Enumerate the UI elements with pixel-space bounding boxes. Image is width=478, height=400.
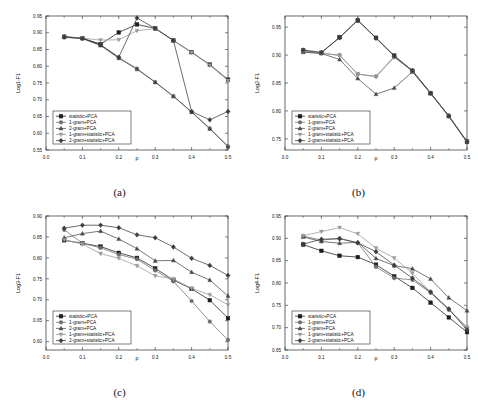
svg-text:2-gram+statistic+PCA: 2-gram+statistic+PCA [69, 138, 115, 143]
svg-text:0.80: 0.80 [33, 256, 42, 261]
panel-caption-d: (d) [239, 386, 478, 398]
svg-text:1-gram+PCA: 1-gram+PCA [308, 320, 336, 325]
svg-text:0.2: 0.2 [116, 355, 123, 360]
svg-text:0.3: 0.3 [152, 155, 159, 160]
svg-text:0.4: 0.4 [188, 355, 195, 360]
svg-text:0.4: 0.4 [427, 155, 434, 160]
svg-text:0.3: 0.3 [391, 155, 398, 160]
svg-text:0.80: 0.80 [272, 281, 281, 286]
svg-text:0.1: 0.1 [318, 355, 325, 360]
svg-text:0.4: 0.4 [427, 355, 434, 360]
svg-text:1-gram+statistic+PCA: 1-gram+statistic+PCA [308, 132, 354, 137]
svg-text:2-gram+PCA: 2-gram+PCA [308, 126, 336, 131]
svg-text:statistic+PCA: statistic+PCA [69, 114, 98, 119]
svg-text:p: p [136, 355, 139, 361]
svg-text:2-gram+PCA: 2-gram+PCA [69, 126, 97, 131]
svg-text:0.80: 0.80 [33, 64, 42, 69]
svg-text:0.65: 0.65 [33, 114, 42, 119]
svg-text:0.90: 0.90 [33, 214, 42, 219]
svg-text:0.0: 0.0 [43, 155, 50, 160]
svg-text:0.2: 0.2 [116, 155, 123, 160]
svg-text:0.5: 0.5 [225, 355, 232, 360]
svg-text:0.95: 0.95 [272, 25, 281, 30]
svg-text:statistic+PCA: statistic+PCA [69, 314, 98, 319]
svg-text:1-gram+PCA: 1-gram+PCA [308, 120, 336, 125]
svg-text:0.1: 0.1 [79, 355, 86, 360]
svg-text:0.95: 0.95 [33, 14, 42, 19]
svg-text:2-gram+PCA: 2-gram+PCA [69, 326, 97, 331]
svg-text:p: p [136, 155, 139, 161]
svg-text:0.85: 0.85 [33, 235, 42, 240]
svg-text:0.90: 0.90 [272, 53, 281, 58]
chart-panel-d: 0.650.700.750.800.850.900.950.00.10.20.3… [239, 200, 478, 400]
chart-panel-b: 0.750.800.850.900.950.00.10.20.30.40.5pL… [239, 0, 478, 200]
svg-text:2-gram+statistic+PCA: 2-gram+statistic+PCA [308, 338, 354, 343]
svg-text:2-gram+PCA: 2-gram+PCA [308, 326, 336, 331]
svg-text:1-gram+PCA: 1-gram+PCA [69, 320, 97, 325]
svg-text:0.85: 0.85 [272, 81, 281, 86]
panel-caption-b: (b) [239, 186, 478, 198]
plot-d: 0.650.700.750.800.850.900.950.00.10.20.3… [239, 200, 478, 400]
svg-text:0.65: 0.65 [272, 348, 281, 353]
svg-text:1-gram+statistic+PCA: 1-gram+statistic+PCA [308, 332, 354, 337]
svg-text:p: p [375, 155, 378, 161]
panel-caption-a: (a) [0, 186, 239, 198]
svg-text:0.1: 0.1 [318, 155, 325, 160]
svg-text:1-gram+PCA: 1-gram+PCA [69, 120, 97, 125]
svg-text:0.3: 0.3 [391, 355, 398, 360]
svg-text:0.85: 0.85 [33, 47, 42, 52]
svg-text:Log1-F1: Log1-F1 [15, 73, 21, 93]
svg-text:0.55: 0.55 [33, 148, 42, 153]
svg-text:statistic+PCA: statistic+PCA [308, 314, 337, 319]
svg-text:Log2-F1: Log2-F1 [254, 73, 260, 93]
svg-text:0.75: 0.75 [272, 137, 281, 142]
plot-a: 0.550.600.650.700.750.800.850.900.950.00… [0, 0, 239, 200]
figure-panel-grid: 0.550.600.650.700.750.800.850.900.950.00… [0, 0, 478, 400]
svg-text:Log4-F1: Log4-F1 [254, 273, 260, 293]
svg-text:0.75: 0.75 [33, 277, 42, 282]
svg-text:0.0: 0.0 [43, 355, 50, 360]
svg-text:2-gram+statistic+PCA: 2-gram+statistic+PCA [308, 138, 354, 143]
svg-text:0.75: 0.75 [272, 303, 281, 308]
svg-text:0.65: 0.65 [33, 318, 42, 323]
plot-b: 0.750.800.850.900.950.00.10.20.30.40.5pL… [239, 0, 478, 200]
svg-text:0.75: 0.75 [33, 81, 42, 86]
svg-text:1-gram+statistic+PCA: 1-gram+statistic+PCA [69, 132, 115, 137]
svg-text:0.80: 0.80 [272, 109, 281, 114]
svg-text:0.70: 0.70 [33, 97, 42, 102]
chart-panel-c: 0.600.650.700.750.800.850.900.00.10.20.3… [0, 200, 239, 400]
panel-caption-c: (c) [0, 386, 239, 398]
svg-text:0.90: 0.90 [272, 236, 281, 241]
svg-text:0.1: 0.1 [79, 155, 86, 160]
plot-c: 0.600.650.700.750.800.850.900.00.10.20.3… [0, 200, 239, 400]
svg-text:p: p [375, 355, 378, 361]
svg-text:0.0: 0.0 [282, 355, 289, 360]
svg-text:0.60: 0.60 [33, 339, 42, 344]
svg-text:0.95: 0.95 [272, 214, 281, 219]
svg-text:0.5: 0.5 [464, 355, 471, 360]
svg-text:0.70: 0.70 [33, 297, 42, 302]
svg-text:2-gram+statistic+PCA: 2-gram+statistic+PCA [69, 338, 115, 343]
svg-text:0.2: 0.2 [355, 355, 362, 360]
svg-text:1-gram+statistic+PCA: 1-gram+statistic+PCA [69, 332, 115, 337]
svg-text:0.85: 0.85 [272, 258, 281, 263]
svg-text:0.70: 0.70 [272, 325, 281, 330]
svg-text:0.5: 0.5 [464, 155, 471, 160]
svg-text:0.0: 0.0 [282, 155, 289, 160]
svg-text:statistic+PCA: statistic+PCA [308, 114, 337, 119]
svg-text:0.2: 0.2 [355, 155, 362, 160]
svg-text:0.5: 0.5 [225, 155, 232, 160]
chart-panel-a: 0.550.600.650.700.750.800.850.900.950.00… [0, 0, 239, 200]
svg-text:0.90: 0.90 [33, 30, 42, 35]
svg-text:Log3-F1: Log3-F1 [15, 273, 21, 293]
svg-text:0.60: 0.60 [33, 131, 42, 136]
svg-text:0.3: 0.3 [152, 355, 159, 360]
svg-text:0.4: 0.4 [188, 155, 195, 160]
